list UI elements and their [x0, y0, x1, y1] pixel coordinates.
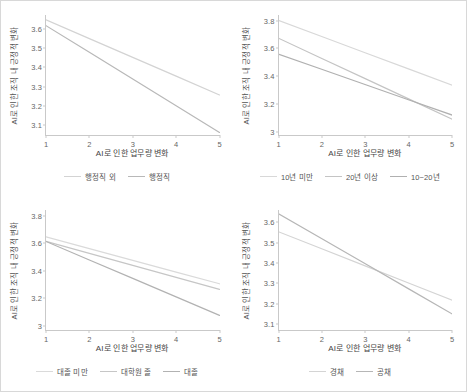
- x-axis-tick-mark: [365, 330, 366, 333]
- y-axis-tick-mark: [43, 28, 46, 29]
- y-axis-tick-label: 3.4: [31, 266, 42, 275]
- plot-wrap-panel-3: 33.23.43.63.812345: [45, 210, 220, 331]
- y-axis-tick-label: 3.6: [264, 218, 275, 227]
- x-axis-tick-mark: [408, 135, 409, 138]
- y-axis-label-text: AI로 인한 조직 내 긍정적 변화: [8, 221, 19, 319]
- x-axis-tick-mark: [278, 135, 279, 138]
- legend-line-swatch: [163, 371, 180, 372]
- legend-line-swatch: [390, 176, 407, 177]
- legend-line-swatch: [309, 371, 326, 372]
- plot-wrap-panel-4: 3.13.23.33.43.53.612345: [278, 210, 453, 331]
- legend-item[interactable]: 행정직 외: [64, 171, 116, 182]
- y-axis-tick-mark: [43, 105, 46, 106]
- plot-wrap-panel-1: 3.13.23.33.43.53.612345: [45, 15, 220, 136]
- y-axis-tick-mark: [276, 323, 279, 324]
- figure-container: AI로 인한 조직 내 긍정적 변화 3.13.23.33.43.53.6123…: [0, 0, 467, 392]
- x-axis-tick-mark: [176, 330, 177, 333]
- legend-label: 대졸 미만: [57, 366, 88, 377]
- y-axis-tick-mark: [276, 48, 279, 49]
- legend-item[interactable]: 20년 이상: [325, 171, 378, 182]
- y-axis-tick-mark: [43, 215, 46, 216]
- x-axis-tick-mark: [89, 135, 90, 138]
- plot-area-panel-3: 33.23.43.63.812345: [45, 210, 220, 331]
- legend-line-swatch: [356, 371, 373, 372]
- legend-item[interactable]: 공채: [356, 366, 391, 377]
- y-axis-tick-label: 3.2: [31, 101, 42, 110]
- y-axis-tick-label: 3.2: [31, 294, 42, 303]
- series-line: [279, 54, 453, 115]
- y-axis-tick-mark: [43, 298, 46, 299]
- x-axis-tick-mark: [132, 135, 133, 138]
- y-axis-tick-label: 3.4: [264, 258, 275, 267]
- x-axis-tick-mark: [219, 330, 220, 333]
- legend-item[interactable]: 대학원 졸: [100, 366, 152, 377]
- line-chart-svg-panel-4: [279, 210, 453, 330]
- y-axis-tick-mark: [43, 125, 46, 126]
- x-axis-label-panel-3: AI로 인한 업무량 변화: [45, 342, 220, 353]
- y-axis-tick-label: 3.6: [31, 24, 42, 33]
- x-axis-tick-mark: [219, 135, 220, 138]
- legend-item[interactable]: 대졸 미만: [36, 366, 88, 377]
- legend-line-swatch: [64, 176, 81, 177]
- series-line: [46, 237, 220, 284]
- x-axis-tick-mark: [321, 135, 322, 138]
- y-axis-tick-mark: [276, 20, 279, 21]
- y-axis-tick-label: 3.2: [264, 299, 275, 308]
- y-axis-tick-label: 3.5: [31, 43, 42, 52]
- y-axis-label-panel-4: AI로 인한 조직 내 긍정적 변화: [240, 210, 252, 331]
- y-axis-tick-label: 3.8: [31, 211, 42, 220]
- x-axis-tick-mark: [408, 330, 409, 333]
- y-axis-label-text: AI로 인한 조직 내 긍정적 변화: [240, 26, 251, 124]
- y-axis-tick-label: 3.3: [31, 82, 42, 91]
- x-axis-tick-mark: [365, 135, 366, 138]
- y-axis-tick-mark: [276, 283, 279, 284]
- legend-item[interactable]: 대졸: [163, 366, 198, 377]
- x-axis-tick-mark: [46, 135, 47, 138]
- y-axis-label-panel-2: AI로 인한 조직 내 긍정적 변화: [240, 15, 252, 136]
- legend-item[interactable]: 10~20년: [390, 171, 440, 182]
- x-axis-tick-mark: [176, 135, 177, 138]
- series-line: [279, 38, 453, 119]
- legend-label: 10~20년: [411, 171, 440, 182]
- plot-area-panel-1: 3.13.23.33.43.53.612345: [45, 15, 220, 136]
- line-chart-svg-panel-3: [46, 210, 220, 330]
- series-line: [279, 214, 453, 314]
- line-chart-svg-panel-1: [46, 15, 220, 135]
- y-axis-tick-mark: [276, 303, 279, 304]
- legend-item[interactable]: 경채: [309, 366, 344, 377]
- x-axis-label-panel-2: AI로 인한 업무량 변화: [278, 147, 453, 158]
- x-axis-tick-mark: [452, 135, 453, 138]
- x-axis-tick-mark: [452, 330, 453, 333]
- line-chart-svg-panel-2: [279, 15, 453, 135]
- y-axis-label-panel-3: AI로 인한 조직 내 긍정적 변화: [7, 210, 19, 331]
- legend-label: 10년 미만: [281, 171, 313, 182]
- y-axis-tick-mark: [276, 242, 279, 243]
- plot-area-panel-4: 3.13.23.33.43.53.612345: [278, 210, 453, 331]
- y-axis-tick-mark: [43, 325, 46, 326]
- y-axis-tick-mark: [43, 270, 46, 271]
- y-axis-label-text: AI로 인한 조직 내 긍정적 변화: [8, 26, 19, 124]
- x-axis-tick-mark: [321, 330, 322, 333]
- legend-line-swatch: [325, 176, 342, 177]
- y-axis-tick-mark: [276, 222, 279, 223]
- y-axis-tick-label: 3: [38, 321, 42, 330]
- series-line: [46, 241, 220, 289]
- y-axis-tick-mark: [43, 47, 46, 48]
- series-line: [46, 241, 220, 315]
- y-axis-tick-label: 3.8: [264, 16, 275, 25]
- y-axis-tick-label: 3.5: [264, 238, 275, 247]
- legend-line-swatch: [128, 176, 145, 177]
- legend-label: 대졸: [184, 366, 198, 377]
- plot-area-panel-2: 33.23.43.63.812345: [278, 15, 453, 136]
- legend-item[interactable]: 행정직: [128, 171, 170, 182]
- y-axis-tick-mark: [43, 67, 46, 68]
- legend-panel-2: 10년 미만20년 이상10~20년: [242, 171, 459, 182]
- y-axis-tick-mark: [276, 104, 279, 105]
- series-line: [46, 20, 220, 95]
- y-axis-tick-mark: [276, 132, 279, 133]
- chart-panel-bottom-right: AI로 인한 조직 내 긍정적 변화 3.13.23.33.43.53.6123…: [234, 196, 467, 391]
- series-line: [279, 21, 453, 86]
- legend-item[interactable]: 10년 미만: [260, 171, 313, 182]
- x-axis-tick-mark: [46, 330, 47, 333]
- y-axis-tick-mark: [276, 262, 279, 263]
